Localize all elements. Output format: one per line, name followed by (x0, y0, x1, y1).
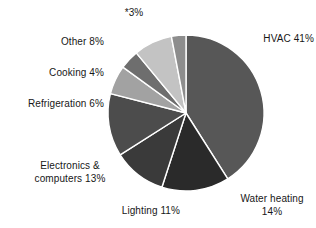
pie-label-other: Other 8% (28, 36, 104, 49)
pie-label-hvac: HVAC 41% (228, 33, 314, 46)
pie-label-star-3: *3% (110, 7, 158, 20)
pie-label-refrigeration: Refrigeration 6% (6, 98, 104, 111)
pie-label-lighting: Lighting 11% (104, 205, 180, 218)
pie-slice-group (108, 35, 264, 191)
pie-label-electronics-computers: Electronics & computers 13% (24, 160, 116, 185)
pie-chart: HVAC 41% Water heating 14% Lighting 11% … (0, 0, 316, 228)
pie-label-cooking: Cooking 4% (20, 67, 104, 80)
pie-label-water-heating: Water heating 14% (232, 193, 312, 218)
